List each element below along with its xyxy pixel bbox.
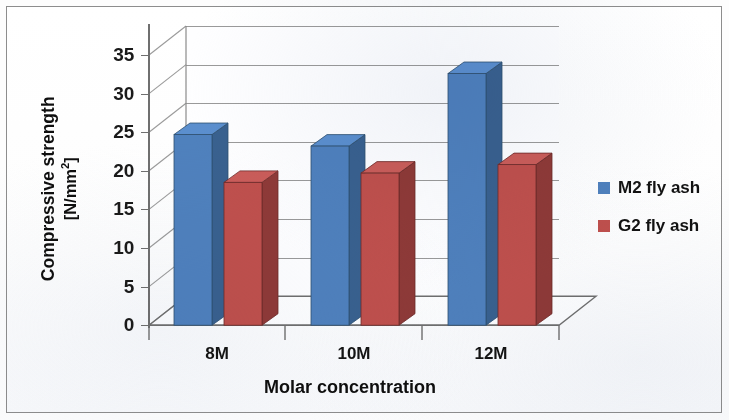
x-tick-label-10M: 10M bbox=[309, 344, 399, 364]
x-axis-title: Molar concentration bbox=[150, 377, 550, 398]
plot-area: 35 30 25 20 15 10 5 0 8M 10M 12M bbox=[0, 0, 729, 420]
bars-group-12M bbox=[448, 62, 552, 325]
y-axis-unit-exponent: 2 bbox=[59, 163, 71, 169]
bar-12M-M2[interactable] bbox=[448, 62, 502, 325]
bar-12M-G2[interactable] bbox=[498, 153, 552, 325]
bar-10M-M2[interactable] bbox=[311, 135, 365, 326]
x-tick-label-8M: 8M bbox=[172, 344, 262, 364]
legend-label-g2: G2 fly ash bbox=[618, 216, 699, 236]
legend-item-m2[interactable]: M2 fly ash bbox=[598, 178, 700, 198]
y-axis-unit-suffix: ] bbox=[60, 157, 78, 163]
y-axis-title-line2: [N/mm2] bbox=[59, 64, 80, 314]
bars-group-8M bbox=[174, 123, 278, 325]
legend: M2 fly ash G2 fly ash bbox=[598, 178, 700, 254]
legend-label-m2: M2 fly ash bbox=[618, 178, 700, 198]
legend-item-g2[interactable]: G2 fly ash bbox=[598, 216, 700, 236]
x-tick-label-12M: 12M bbox=[446, 344, 536, 364]
bar-8M-M2[interactable] bbox=[174, 123, 228, 325]
bars-group-10M bbox=[311, 135, 415, 326]
bar-8M-G2[interactable] bbox=[224, 171, 278, 325]
y-axis-unit-prefix: [N/mm bbox=[60, 169, 78, 220]
legend-swatch-m2 bbox=[598, 182, 610, 194]
y-axis-title: Compressive strength [N/mm2] bbox=[38, 64, 80, 314]
legend-swatch-g2 bbox=[598, 220, 610, 232]
figure-root: 35 30 25 20 15 10 5 0 8M 10M 12M bbox=[0, 0, 729, 420]
y-axis-title-line1: Compressive strength bbox=[38, 96, 58, 281]
bar-10M-G2[interactable] bbox=[361, 162, 415, 326]
